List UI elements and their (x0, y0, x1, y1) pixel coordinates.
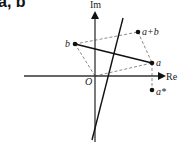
re-axis-label: Re (166, 71, 178, 82)
im-axis-arrowhead-icon (91, 11, 99, 19)
point-a-conj (150, 88, 155, 93)
re-axis-arrowhead-icon (158, 72, 166, 80)
dashed-b-to-apb (75, 32, 138, 44)
point-b (73, 42, 78, 47)
label-a-conj: a* (156, 86, 166, 97)
im-axis-label: Im (90, 0, 101, 10)
origin-label: O (85, 76, 92, 87)
point-a (150, 61, 155, 66)
label-a-plus-b: a+b (142, 26, 159, 37)
dashed-o-to-a (95, 63, 152, 76)
steep-line (92, 18, 123, 140)
complex-plane-diagram: Im Re O b a a+b a* (0, 0, 179, 145)
label-a: a (156, 57, 161, 68)
label-b: b (65, 38, 70, 49)
point-a-plus-b (136, 30, 141, 35)
